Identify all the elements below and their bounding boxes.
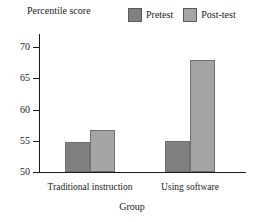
y-axis-title: Percentile score bbox=[27, 6, 91, 16]
legend-label-pretest: Pretest bbox=[146, 10, 173, 20]
y-tick-label-60: 60 bbox=[10, 105, 30, 115]
x-category-label-2: Using software bbox=[130, 183, 250, 193]
bar-post-test-group-2[interactable] bbox=[190, 60, 215, 172]
chart-legend: Pretest Post-test bbox=[128, 8, 236, 22]
bar-pretest-group-1[interactable] bbox=[65, 142, 90, 172]
y-tick-label-50: 50 bbox=[10, 167, 30, 177]
y-tick-50 bbox=[33, 172, 39, 173]
legend-swatch-pretest bbox=[128, 8, 142, 22]
x-axis-title: Group bbox=[0, 202, 264, 212]
x-axis-line bbox=[39, 172, 246, 173]
plot-area bbox=[39, 36, 245, 172]
y-tick-label-70: 70 bbox=[10, 42, 30, 52]
bar-pretest-group-2[interactable] bbox=[165, 141, 190, 172]
bar-post-test-group-1[interactable] bbox=[90, 130, 115, 172]
legend-item-pretest[interactable]: Pretest bbox=[128, 8, 173, 22]
y-tick-label-65: 65 bbox=[10, 73, 30, 83]
legend-swatch-post-test bbox=[183, 8, 197, 22]
legend-label-post-test: Post-test bbox=[201, 10, 235, 20]
legend-item-post-test[interactable]: Post-test bbox=[183, 8, 235, 22]
y-tick-label-55: 55 bbox=[10, 136, 30, 146]
bar-chart: Percentile score Pretest Post-test 50556… bbox=[0, 0, 264, 222]
